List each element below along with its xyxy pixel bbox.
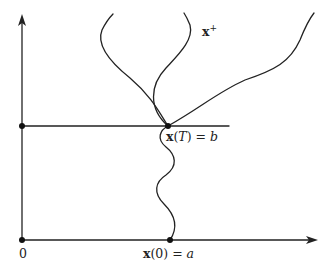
start-point-a xyxy=(167,237,173,243)
axis-T-dot xyxy=(19,123,25,129)
branch-path-right xyxy=(168,13,314,126)
origin-dot xyxy=(19,237,25,243)
end-label: x(T) = b xyxy=(166,129,218,144)
origin-label: 0 xyxy=(19,246,27,261)
branch-path-left xyxy=(101,14,168,126)
xplus-label: x+ xyxy=(202,23,217,39)
start-label: x(0) = a xyxy=(143,246,194,261)
branch-path-xplus xyxy=(154,13,191,126)
diagram-canvas: 0 x(0) = a x(T) = b x+ xyxy=(0,0,335,271)
